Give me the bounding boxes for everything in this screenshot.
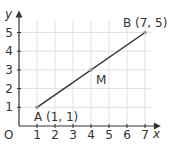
point-label-b: B (7, 5) bbox=[123, 16, 167, 30]
x-tick-label: 1 bbox=[33, 128, 41, 142]
point-label-m: M bbox=[96, 73, 106, 87]
point-b bbox=[143, 31, 147, 35]
x-tick-label: 7 bbox=[141, 128, 149, 142]
y-axis-arrow-icon bbox=[16, 11, 23, 18]
y-tick-label: 3 bbox=[5, 63, 13, 77]
point-m bbox=[89, 68, 93, 72]
y-tick-label: 2 bbox=[5, 82, 13, 96]
point-a bbox=[35, 106, 39, 110]
x-tick-label: 2 bbox=[51, 128, 59, 142]
x-tick-label: 4 bbox=[87, 128, 95, 142]
point-label-a: A (1, 1) bbox=[34, 110, 78, 124]
coordinate-graph: xyO 123456712345 A (1, 1)MB (7, 5) bbox=[0, 0, 172, 144]
x-tick-label: 5 bbox=[105, 128, 113, 142]
y-tick-label: 5 bbox=[5, 26, 13, 40]
y-tick-label: 4 bbox=[5, 44, 13, 58]
x-axis-label: x bbox=[152, 127, 161, 141]
origin-label: O bbox=[4, 128, 13, 142]
y-axis-label: y bbox=[4, 7, 13, 21]
y-tick-label: 1 bbox=[5, 100, 13, 114]
x-tick-label: 6 bbox=[123, 128, 131, 142]
x-tick-label: 3 bbox=[69, 128, 77, 142]
